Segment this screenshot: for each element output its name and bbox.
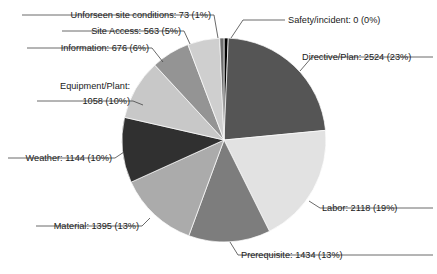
- pie-slices: [122, 38, 326, 242]
- pie-label-site-access: Site Access: 563 (5%): [91, 26, 181, 36]
- pie-label-labor: Labor: 2118 (19%): [322, 203, 397, 213]
- pie-label-material: Material: 1395 (13%): [54, 221, 139, 231]
- pie-label-weather: Weather: 1144 (10%): [26, 153, 112, 163]
- pie-label-unforseen-site-conditions: Unforseen site conditions: 73 (1%): [71, 10, 211, 20]
- pie-chart: Safety/incident: 0 (0%) Directive/Plan: …: [0, 0, 437, 274]
- pie-chart-page: Safety/incident: 0 (0%) Directive/Plan: …: [0, 0, 437, 274]
- pie-label-safety-incident: Safety/incident: 0 (0%): [288, 15, 380, 25]
- pie-label-equipment-plant-line2: 1058 (10%): [83, 96, 131, 106]
- pie-label-information: Information: 676 (6%): [61, 43, 149, 53]
- pie-label-prerequisite: Prerequisite: 1434 (13%): [241, 250, 343, 260]
- leader-line-safety-incident: [231, 20, 285, 38]
- pie-label-directive-plan: Directive/Plan: 2524 (23%): [302, 52, 411, 62]
- pie-label-equipment-plant-line1: Equipment/Plant:: [60, 81, 130, 91]
